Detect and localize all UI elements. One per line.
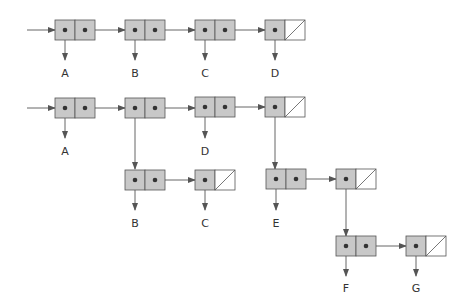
label-b2: B xyxy=(131,217,139,230)
label-f: F xyxy=(343,282,349,295)
cons-cell xyxy=(55,98,95,118)
cons-cell xyxy=(125,170,165,190)
label-a2: A xyxy=(61,145,69,158)
cons-cell xyxy=(195,20,235,40)
cons-cell xyxy=(55,20,95,40)
cons-cell xyxy=(125,20,165,40)
cons-cell-nil xyxy=(195,170,235,190)
label-d2: D xyxy=(201,145,209,158)
label-e: E xyxy=(273,217,280,230)
cons-cell-nil xyxy=(265,20,305,40)
cons-cell xyxy=(336,236,376,256)
label-c2: C xyxy=(201,217,209,230)
cons-cell xyxy=(195,97,235,117)
cons-cell-nil xyxy=(265,97,305,117)
cons-cell-nil xyxy=(336,169,376,189)
box-pointer-diagram: A B C D A D B C xyxy=(0,0,467,295)
label-g: G xyxy=(412,282,421,295)
label-c: C xyxy=(201,67,209,80)
label-a: A xyxy=(61,67,69,80)
label-b: B xyxy=(131,67,139,80)
cons-cell-nil xyxy=(406,236,446,256)
cons-cell xyxy=(125,98,165,118)
cons-cell xyxy=(266,169,306,189)
label-d: D xyxy=(271,67,279,80)
